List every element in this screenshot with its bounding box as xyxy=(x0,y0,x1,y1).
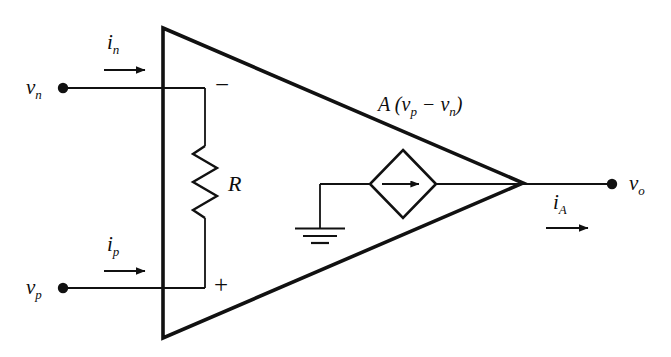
label-ia-sub: A xyxy=(559,202,567,217)
gain-close: ) xyxy=(456,93,463,115)
terminal-vp-dot xyxy=(58,283,68,293)
plus-terminal-sign: + xyxy=(214,272,228,297)
label-vn: vn xyxy=(26,77,42,101)
label-vp: vp xyxy=(26,277,42,301)
label-in: in xyxy=(107,32,119,56)
terminal-vo-dot xyxy=(607,179,617,189)
gain-prefix: A (v xyxy=(378,93,410,115)
label-vn-sub: n xyxy=(35,87,42,102)
label-resistor: R xyxy=(228,173,241,195)
dependent-source xyxy=(370,150,436,218)
label-vo-base: v xyxy=(629,171,638,195)
circuit-diagram xyxy=(0,0,671,357)
noninverting-input-wire xyxy=(58,283,205,293)
label-vp-base: v xyxy=(26,275,35,299)
gain-minus: − v xyxy=(417,93,449,115)
label-vo-sub: o xyxy=(638,183,645,198)
ground xyxy=(295,184,371,243)
label-ip: ip xyxy=(107,234,119,258)
label-ia: iA xyxy=(553,192,567,216)
label-gain-expression: A (vp − vn) xyxy=(378,94,462,118)
label-ip-sub: p xyxy=(113,244,120,259)
terminal-vn-dot xyxy=(58,83,68,93)
figure-canvas: vn vp vo in ip iA R A (vp − vn) − + xyxy=(0,0,671,357)
minus-terminal-sign: − xyxy=(215,72,229,97)
label-vp-sub: p xyxy=(35,287,42,302)
label-in-sub: n xyxy=(113,42,120,57)
inverting-input-wire xyxy=(58,83,205,93)
output-wire xyxy=(523,179,617,189)
label-vn-base: v xyxy=(26,75,35,99)
input-resistor xyxy=(193,88,217,288)
label-vo: vo xyxy=(629,173,645,197)
